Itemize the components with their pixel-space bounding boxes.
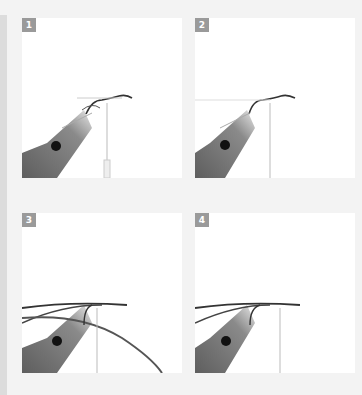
- hook-icon: [249, 95, 295, 114]
- fly-tying-illustration-1: [22, 18, 182, 178]
- fly-tying-illustration-4: [195, 213, 355, 373]
- step-panel-1: 1: [22, 18, 182, 178]
- step-panel-4: 4: [195, 213, 355, 373]
- step-panel-2: 2: [195, 18, 355, 178]
- page-margin-strip: [0, 15, 7, 395]
- step-panel-3: 3: [22, 213, 182, 373]
- fly-tying-illustration-2: [195, 18, 355, 178]
- fly-tying-illustration-3: [22, 213, 182, 373]
